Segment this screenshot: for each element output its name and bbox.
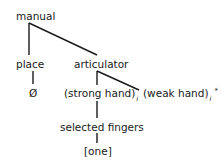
node-place: place xyxy=(16,58,44,70)
node-weak-hand: (weak hand)i* xyxy=(143,87,218,101)
weak-hand-asterisk: * xyxy=(214,87,218,95)
node-one: [one] xyxy=(84,145,112,157)
node-manual: manual xyxy=(16,10,55,22)
node-empty-set: Ø xyxy=(29,87,37,99)
strong-hand-label: (strong hand) xyxy=(64,87,135,99)
node-selected-fingers: selected fingers xyxy=(60,121,144,133)
node-strong-hand: (strong hand)i xyxy=(64,87,138,101)
weak-hand-label: (weak hand) xyxy=(143,87,209,99)
edge-manual-articulator xyxy=(29,23,97,55)
tree-edges xyxy=(0,0,223,164)
node-articulator: articulator xyxy=(74,58,128,70)
